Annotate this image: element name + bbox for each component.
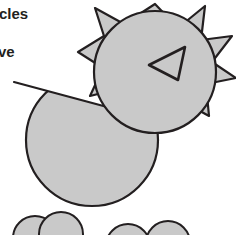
label-circles: cles <box>0 6 28 21</box>
foot-right-circle-a-shape <box>106 224 150 235</box>
figure-canvas: cles ve <box>0 0 236 235</box>
head-circle-shape <box>94 11 216 133</box>
foot-left-circle-b-shape <box>39 212 83 235</box>
shape-illustration <box>0 0 236 235</box>
label-ve: ve <box>0 44 15 59</box>
foot-right-circle-b-shape <box>146 221 190 235</box>
